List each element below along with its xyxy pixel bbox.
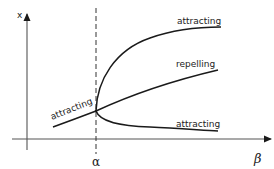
bifurcation-diagram: x β α attracting attracting repelling at…	[0, 0, 274, 169]
critical-value-line: α	[92, 8, 100, 169]
x-axis-label: β	[253, 151, 262, 166]
critical-value-label: α	[92, 155, 100, 169]
bifurcation-point	[95, 110, 97, 112]
branch-lower-label: attracting	[176, 119, 220, 129]
branch-lower-attracting: attracting	[96, 111, 220, 131]
branch-left-attracting: attracting	[49, 96, 96, 127]
y-axis-label: x	[17, 10, 23, 20]
branch-upper-label: attracting	[177, 16, 221, 26]
branch-left-label: attracting	[49, 96, 94, 122]
y-axis: x	[17, 10, 27, 150]
x-axis: β	[12, 139, 271, 166]
branch-middle-label: repelling	[176, 59, 215, 69]
branch-middle-repelling: repelling	[96, 59, 218, 111]
